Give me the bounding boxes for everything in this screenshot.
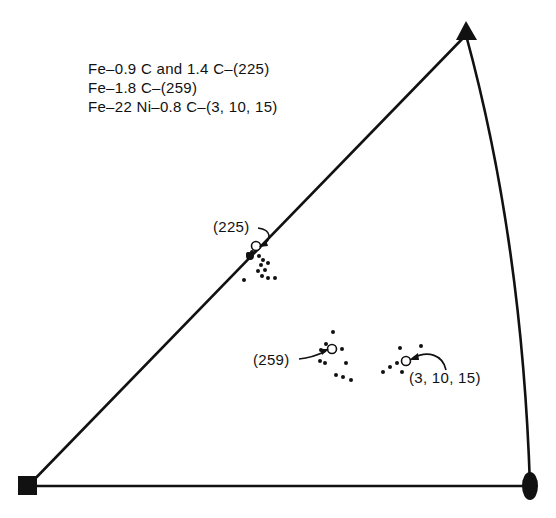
scatter-point xyxy=(334,373,338,377)
label-3-10-15: (3, 10, 15) xyxy=(409,369,481,386)
pole-225-marker xyxy=(252,242,261,251)
scatter-point xyxy=(331,330,335,334)
scatter-point xyxy=(340,347,344,351)
pole-3-10-15-marker xyxy=(402,357,411,366)
scatter-point xyxy=(263,268,267,272)
stereographic-triangle xyxy=(0,0,556,518)
scatter-point xyxy=(398,346,402,350)
scatter-point xyxy=(266,261,270,265)
edge-arc-111-011 xyxy=(466,35,530,486)
scatter-point xyxy=(344,361,348,365)
square-pole-marker xyxy=(18,476,37,495)
scatter-point xyxy=(341,375,345,379)
scatter-point xyxy=(256,269,260,273)
scatter-point xyxy=(323,361,327,365)
scatter-point xyxy=(381,370,385,374)
scatter-point xyxy=(395,361,399,365)
scatter-point xyxy=(273,276,277,280)
scatter-point xyxy=(261,258,265,262)
triangle-pole-marker xyxy=(456,21,477,40)
scatter-point xyxy=(242,278,246,282)
scatter-225 xyxy=(242,246,277,282)
label-259: (259) xyxy=(253,351,290,368)
scatter-point xyxy=(266,276,270,280)
scatter-point xyxy=(388,365,392,369)
scatter-point xyxy=(419,344,423,348)
label-225: (225) xyxy=(213,218,250,235)
scatter-point xyxy=(318,359,322,363)
arrow-3-10-15-head xyxy=(409,353,419,360)
scatter-259 xyxy=(318,330,353,382)
scatter-point xyxy=(400,370,404,374)
legend: Fe–0.9 C and 1.4 C–(225) Fe–1.8 C–(259) … xyxy=(88,59,278,116)
lens-pole-marker xyxy=(522,472,538,500)
scatter-cluster-blob xyxy=(246,252,254,260)
scatter-point xyxy=(259,263,263,267)
legend-item-259: Fe–1.8 C–(259) xyxy=(88,78,278,97)
scatter-point xyxy=(349,378,353,382)
legend-item-225: Fe–0.9 C and 1.4 C–(225) xyxy=(88,59,278,78)
scatter-point xyxy=(257,254,261,258)
legend-item-3-10-15: Fe–22 Ni–0.8 C–(3, 10, 15) xyxy=(88,97,278,116)
scatter-point xyxy=(324,342,328,346)
scatter-point xyxy=(260,274,264,278)
